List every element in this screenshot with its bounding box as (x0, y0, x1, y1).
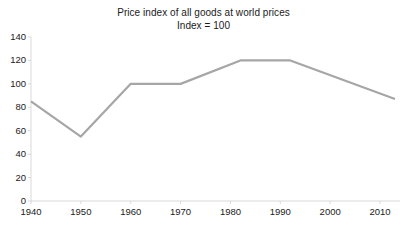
y-axis-tick-label: 40 (0, 149, 26, 159)
x-axis-tick-label: 1960 (111, 207, 151, 217)
x-axis-tick-label: 1970 (161, 207, 201, 217)
y-axis-tick-label: 140 (0, 32, 26, 42)
x-axis-tick-label: 2010 (360, 207, 400, 217)
x-axis-tick-label: 2000 (310, 207, 350, 217)
x-axis-tick-label: 1980 (210, 207, 250, 217)
x-axis-tick-label: 1940 (11, 207, 51, 217)
chart-container: Price index of all goods at world prices… (0, 0, 407, 240)
y-axis-tick-label: 0 (0, 196, 26, 206)
y-axis-tick-label: 80 (0, 102, 26, 112)
axis-lines (31, 37, 400, 201)
y-axis-tick-label: 100 (0, 79, 26, 89)
y-axis-tick-label: 120 (0, 55, 26, 65)
y-axis-tick-label: 60 (0, 126, 26, 136)
x-axis-tick-label: 1950 (61, 207, 101, 217)
line-chart-plot (0, 0, 407, 240)
x-axis-tick-label: 1990 (260, 207, 300, 217)
data-series-line (31, 60, 395, 136)
y-axis-tick-label: 20 (0, 173, 26, 183)
